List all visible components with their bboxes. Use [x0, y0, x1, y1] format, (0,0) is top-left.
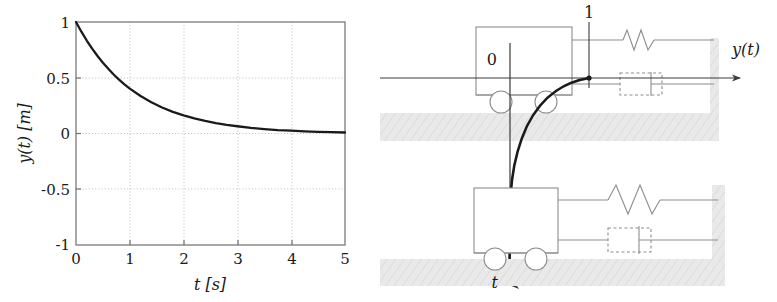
label-zero: 0: [487, 50, 497, 69]
cart-upper-wheel-left: [490, 91, 512, 113]
lower-subsystem: t: [380, 185, 725, 292]
label-t-axis: t: [492, 273, 499, 292]
xtick-label-5: 5: [340, 250, 350, 268]
wall-upper: [710, 38, 719, 141]
cart-lower-wheel-left: [484, 248, 506, 270]
ground-lower: [380, 259, 725, 286]
spring-lower: [558, 185, 718, 214]
response-plot-panel: 1 0.5 0 -0.5 -1 0 1 2 3 4 5 t [s] y(t) […: [0, 0, 380, 302]
ytick-label-neg1: -1: [55, 236, 70, 254]
y-axis-title: y(t) [m]: [15, 102, 34, 164]
response-curve: [76, 22, 345, 133]
ytick-label-1: 1: [60, 14, 70, 32]
ground-upper: [380, 113, 718, 141]
figure-root: 1 0.5 0 -0.5 -1 0 1 2 3 4 5 t [s] y(t) […: [0, 0, 777, 302]
cart-lower-body: [474, 188, 558, 253]
cart-lower-wheel-right: [525, 248, 547, 270]
plot-gridlines: [76, 22, 345, 245]
damper-lower: [558, 226, 718, 254]
spring-upper: [572, 30, 714, 50]
label-y-axis: y(t): [731, 40, 760, 59]
damper-upper: [572, 72, 714, 96]
xtick-label-1: 1: [125, 250, 135, 268]
label-one: 1: [584, 3, 594, 22]
xtick-label-4: 4: [287, 250, 297, 268]
upper-subsystem: 0 1 y(t): [380, 3, 760, 285]
plot-ticks: [76, 78, 292, 245]
mechanical-diagram-panel: 0 1 y(t): [380, 0, 777, 302]
ytick-label-0: 0: [60, 125, 70, 143]
x-axis-title: t [s]: [194, 275, 227, 294]
xtick-label-0: 0: [71, 250, 81, 268]
ytick-label-0.5: 0.5: [46, 70, 70, 88]
xtick-label-3: 3: [233, 250, 243, 268]
ytick-label-neg0.5: -0.5: [41, 181, 70, 199]
response-plot-svg: 1 0.5 0 -0.5 -1 0 1 2 3 4 5 t [s] y(t) […: [0, 0, 380, 302]
mechanical-diagram-svg: 0 1 y(t): [380, 0, 777, 302]
curve-origin-marker: [586, 75, 591, 80]
xtick-label-2: 2: [179, 250, 189, 268]
